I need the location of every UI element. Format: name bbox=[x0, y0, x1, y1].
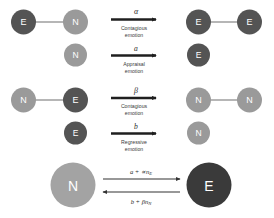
node-label-row3-right-b: N bbox=[246, 95, 253, 105]
product-group-row2: E bbox=[187, 44, 210, 67]
node-label-row1-left-a: E bbox=[20, 17, 26, 27]
node-label-row2-left: N bbox=[72, 50, 78, 60]
node-label-row4-left: E bbox=[73, 128, 79, 138]
node-label-row1-right-b: E bbox=[246, 17, 252, 27]
reactant-group-row2: N bbox=[64, 44, 87, 67]
product-group-row4: N bbox=[187, 122, 210, 145]
forward-rate-label-summary: a + ∝nE bbox=[130, 168, 152, 176]
node-label-row4-right: N bbox=[195, 128, 201, 138]
node-label-row1-left-b: N bbox=[72, 17, 79, 27]
rate-label-row2: a bbox=[134, 44, 138, 53]
rate-label-row3: β bbox=[133, 86, 138, 95]
caption-row1-line2: emotion bbox=[125, 32, 144, 38]
reactant-group-row4: E bbox=[64, 122, 87, 145]
node-label-row1-right-a: E bbox=[195, 17, 201, 27]
caption-row2-line1: Appraisal bbox=[123, 61, 145, 67]
emotion-contagion-reaction-diagram: E N α Contagious emotion E E N a Apprais… bbox=[0, 0, 274, 218]
caption-row3-line2: emotion bbox=[125, 110, 144, 116]
node-label-row3-right-a: N bbox=[195, 95, 202, 105]
node-label-row3-left-a: N bbox=[20, 95, 27, 105]
caption-row3-line1: Contagious bbox=[121, 103, 148, 109]
caption-row1-line1: Contagious bbox=[121, 25, 148, 31]
node-label-row3-left-b: E bbox=[72, 95, 78, 105]
node-label-row2-right: E bbox=[196, 50, 202, 60]
caption-row2-line2: emotion bbox=[125, 68, 144, 74]
node-label-summary-left: N bbox=[68, 178, 78, 194]
caption-row4-line1: Regressive bbox=[121, 139, 147, 145]
node-label-summary-right: E bbox=[204, 178, 213, 194]
caption-row4-line2: emotion bbox=[125, 146, 144, 152]
rate-label-row4: b bbox=[134, 122, 138, 131]
